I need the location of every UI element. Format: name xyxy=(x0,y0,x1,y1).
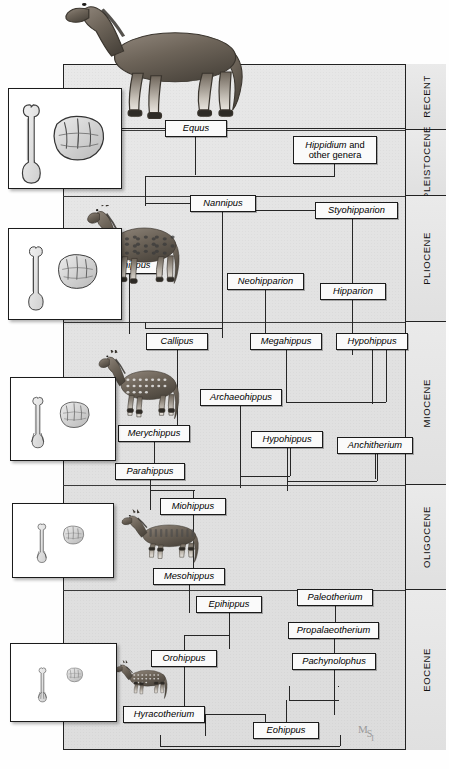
epoch-band-miocene: MIOCENE xyxy=(406,322,446,485)
c-propal-stem xyxy=(334,639,335,653)
taxon-label-eohippus: Eohippus xyxy=(267,725,306,735)
taxon-label-neohipparion: Neohipparion xyxy=(238,276,293,286)
epoch-band-oligocene: OLIGOCENE xyxy=(406,485,446,590)
connector-elbow-22 xyxy=(286,402,386,403)
taxon-label-styohipparion: Styohipparion xyxy=(328,205,385,215)
watermark: MSI xyxy=(358,723,376,735)
fossil-mesohippus xyxy=(12,503,114,578)
limb-bone-icon xyxy=(29,247,43,310)
connector-elbow-17 xyxy=(377,454,378,481)
fossil-pliohippus xyxy=(8,228,122,320)
limb-bone-icon xyxy=(37,524,46,563)
fossil-pliohippus-drawing xyxy=(9,229,121,319)
connector-elbow-21 xyxy=(286,350,287,402)
taxon-box-eohippus[interactable]: Eohippus xyxy=(253,722,319,739)
taxon-label-nannipus: Nannipus xyxy=(203,198,242,208)
epoch-scale-column: RECENTPLEISTOCENEPLIOCENEMIOCENEOLIGOCEN… xyxy=(405,64,445,750)
fossil-hyracotherium-drawing xyxy=(11,644,116,721)
horse-mesohippus xyxy=(118,508,210,576)
horse-hooves xyxy=(149,547,194,551)
taxon-label-hipparion: Hipparion xyxy=(333,286,373,296)
c-archaeo-stem xyxy=(240,406,241,476)
epoch-rule-oligocene xyxy=(63,485,405,486)
connector-elbow-14 xyxy=(290,448,291,476)
taxon-box-pachynolophus[interactable]: Pachynolophus xyxy=(292,653,376,670)
taxon-box-anchitherium[interactable]: Anchitherium xyxy=(337,437,413,454)
epoch-rule-miocene xyxy=(63,322,405,323)
taxon-label-hypohippus_bot: Hypohippus xyxy=(262,434,311,444)
taxon-label-parahippus: Parahippus xyxy=(126,466,173,476)
c-junction-h xyxy=(145,176,335,177)
limb-bone-icon xyxy=(31,397,43,448)
taxon-box-styohipparion[interactable]: Styohipparion xyxy=(315,202,398,219)
taxon-label-hippidium: Hippidium and other genera xyxy=(297,140,373,160)
limb-bone-icon xyxy=(22,105,40,183)
horse-hooves xyxy=(127,408,174,413)
taxon-box-hypohippus_top[interactable]: Hypohippus xyxy=(336,333,408,350)
taxon-label-hypohippus_top: Hypohippus xyxy=(347,336,396,346)
connector-elbow-23 xyxy=(386,350,387,402)
taxon-box-parahippus[interactable]: Parahippus xyxy=(115,463,185,480)
taxon-label-hyracotherium: Hyracotherium xyxy=(134,709,194,719)
taxon-label-megahippus: Megahippus xyxy=(261,336,312,346)
taxon-box-hypohippus_bot[interactable]: Hypohippus xyxy=(251,431,323,448)
taxon-box-archaeohippus[interactable]: Archaeohippus xyxy=(200,389,282,406)
epoch-band-pliocene: PLIOCENE xyxy=(406,196,446,322)
molar-tooth-icon xyxy=(54,116,103,160)
connector-elbow-9 xyxy=(222,328,223,338)
taxon-box-neohipparion[interactable]: Neohipparion xyxy=(227,273,304,290)
taxon-label-propalaeotherium: Propalaeotherium xyxy=(297,625,370,635)
horse-head-neck xyxy=(66,2,124,56)
molar-tooth-icon xyxy=(63,526,83,544)
horse-hooves xyxy=(120,277,174,283)
c-meso-stem xyxy=(189,585,190,613)
taxon-box-hippidium[interactable]: Hippidium and other genera xyxy=(293,136,377,164)
connector-elbow-1 xyxy=(334,164,335,176)
horse-hyracotherium xyxy=(113,657,175,709)
connector-elbow-6 xyxy=(205,714,206,736)
taxon-label-pachynolophus: Pachynolophus xyxy=(302,656,366,666)
c-nannipus-stem xyxy=(222,212,223,328)
taxon-box-megahippus[interactable]: Megahippus xyxy=(250,333,322,350)
taxon-box-hipparion[interactable]: Hipparion xyxy=(320,283,386,300)
connector-elbow-30 xyxy=(289,686,290,700)
epoch-label-oligocene: OLIGOCENE xyxy=(421,506,432,568)
fossil-merychippus-drawing xyxy=(11,378,115,460)
epoch-label-eocene: EOCENE xyxy=(421,648,432,692)
connector-elbow-8 xyxy=(265,714,266,722)
taxon-label-epihippus: Epihippus xyxy=(209,599,250,609)
epoch-band-pleistocene: PLEISTOCENE xyxy=(406,130,446,196)
c-mery-stem xyxy=(154,442,155,463)
fossil-mesohippus-drawing xyxy=(13,504,113,577)
connector-elbow-28 xyxy=(184,635,185,651)
taxon-label-paleotherium: Paleotherium xyxy=(308,592,363,602)
connector-elbow-25 xyxy=(229,635,230,649)
taxon-box-callipus[interactable]: Callipus xyxy=(146,333,208,350)
connector-elbow-31 xyxy=(338,686,339,687)
c-oro-stem xyxy=(184,667,185,706)
taxon-box-epihippus[interactable]: Epihippus xyxy=(196,596,262,613)
taxon-label-anchitherium: Anchitherium xyxy=(348,440,402,450)
taxon-label-callipus: Callipus xyxy=(160,336,193,346)
horse-head-neck xyxy=(122,509,147,537)
connector-elbow-5 xyxy=(340,735,341,746)
taxon-box-propalaeotherium[interactable]: Propalaeotherium xyxy=(288,622,379,639)
epoch-band-eocene: EOCENE xyxy=(406,590,446,750)
connector-elbow-0 xyxy=(145,176,146,206)
taxon-box-nannipus[interactable]: Nannipus xyxy=(190,195,256,212)
taxon-box-paleotherium[interactable]: Paleotherium xyxy=(297,589,373,606)
c-para-stem xyxy=(150,480,151,498)
epoch-label-miocene: MIOCENE xyxy=(421,379,432,428)
horse-mesohippus-drawing xyxy=(118,508,210,576)
connector-elbow-20 xyxy=(193,490,194,498)
connector-elbow-11 xyxy=(145,322,146,328)
fossil-hyracotherium xyxy=(10,643,117,722)
molar-tooth-icon xyxy=(67,668,83,682)
c-equus-stem xyxy=(195,137,196,175)
epoch-band-recent: RECENT xyxy=(406,64,446,130)
fossil-equus xyxy=(8,88,122,189)
connector-elbow-3 xyxy=(160,746,340,747)
epoch-label-pleistocene: PLEISTOCENE xyxy=(421,126,432,199)
c-hypo-top-stem xyxy=(372,350,373,404)
epoch-label-recent: RECENT xyxy=(421,75,432,118)
